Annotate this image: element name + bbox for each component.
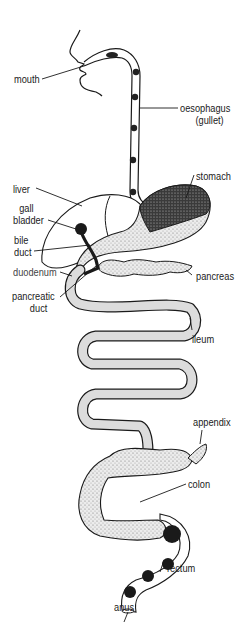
label-anus: anus (114, 601, 134, 613)
label-pancreatic-duct-line2: duct (12, 302, 55, 314)
face-profile (70, 30, 102, 96)
label-bile-duct-line2: duct (14, 246, 31, 258)
label-mouth: mouth (14, 73, 40, 85)
label-bile-duct-line1: bile (14, 234, 31, 246)
label-gall-bladder: gall bladder (13, 202, 44, 226)
label-stomach: stomach (196, 170, 231, 182)
digestive-system-diagram (0, 0, 250, 634)
label-oesophagus-line2: (gullet) (180, 114, 230, 126)
pancreas-shape (99, 260, 192, 276)
oesophagus-tube (84, 49, 150, 206)
label-pancreatic-duct: pancreatic duct (12, 290, 55, 314)
label-rectum: rectum (167, 562, 195, 574)
label-pancreas: pancreas (196, 270, 234, 282)
label-pancreatic-duct-line1: pancreatic (12, 290, 55, 302)
label-gall-bladder-line1: gall (13, 202, 44, 214)
label-oesophagus-line1: oesophagus (180, 102, 230, 114)
label-ileum: ileum (192, 333, 214, 345)
label-colon: colon (188, 478, 210, 490)
label-gall-bladder-line2: bladder (13, 214, 44, 226)
label-bile-duct: bile duct (14, 234, 31, 258)
gall-bladder-shape (75, 223, 87, 235)
label-duodenum: duodenum (13, 266, 57, 278)
label-oesophagus: oesophagus (gullet) (180, 102, 230, 126)
label-liver: liver (13, 183, 30, 195)
label-appendix: appendix (193, 416, 231, 428)
